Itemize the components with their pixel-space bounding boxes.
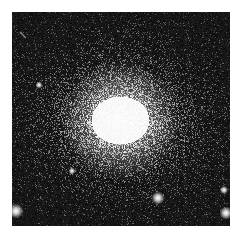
star-field-canvas <box>12 12 230 226</box>
cluster-image <box>12 12 230 226</box>
